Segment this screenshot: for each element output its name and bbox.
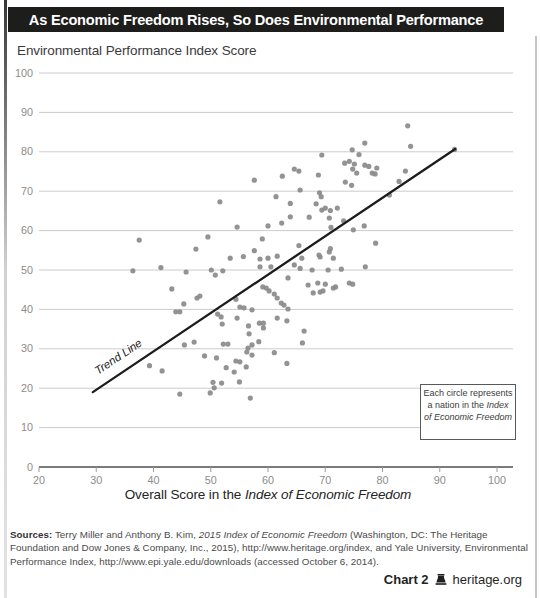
data-point [328,225,333,230]
data-point [335,206,340,211]
sources-italic: 2015 Index of Economic Freedom [199,529,348,540]
y-tick-label: 30 [21,342,33,354]
data-point [232,369,237,374]
data-point [261,325,266,330]
data-point [292,262,297,267]
data-point [319,152,324,157]
data-point [296,243,301,248]
data-point [362,141,367,146]
data-point [275,254,280,259]
data-point [275,316,280,321]
data-point [296,169,301,174]
data-point [219,381,224,386]
data-point [228,256,233,261]
data-point [280,174,285,179]
data-point [265,256,270,261]
data-point [249,353,254,358]
data-point [247,331,252,336]
data-point [137,238,142,243]
y-tick-label: 90 [21,106,33,118]
data-point [349,183,354,188]
data-point [235,316,240,321]
data-point [244,349,249,354]
data-point [248,396,253,401]
data-point [354,171,359,176]
data-point [192,340,197,345]
data-point [331,256,336,261]
data-point [169,286,174,291]
x-tick-label: 30 [90,474,102,486]
data-point [397,179,402,184]
data-point [197,293,202,298]
footer-site: heritage.org [453,572,522,587]
footer: Chart 2 heritage.org [384,572,522,587]
data-point [214,355,219,360]
x-tick-label: 50 [205,474,217,486]
data-point [363,264,368,269]
data-point [237,379,242,384]
data-point [209,267,214,272]
data-point [208,390,213,395]
data-point [327,215,332,220]
data-point [212,385,217,390]
data-point [177,309,182,314]
data-point [284,361,289,366]
data-point [273,194,278,199]
data-point [350,167,355,172]
data-point [314,201,319,206]
y-tick-label: 50 [21,264,33,276]
data-point [260,236,265,241]
data-point [182,342,187,347]
data-point [292,167,297,172]
data-point [257,256,262,261]
data-point [320,288,325,293]
data-point [343,180,348,185]
data-point [300,340,305,345]
data-point [347,159,352,164]
data-point [279,221,284,226]
data-point [356,152,361,157]
data-point [256,339,261,344]
data-point [246,323,251,328]
data-point [217,199,222,204]
sources-label: Sources: [10,529,52,540]
data-point [299,256,304,261]
data-point [306,282,311,287]
data-point [213,273,218,278]
data-point [225,342,230,347]
y-tick-label: 10 [21,421,33,433]
data-point [202,353,207,358]
sources-seg1: Terry Miller and Anthony B. Kim, [52,529,198,540]
trend-line-label: Trend Line [92,337,144,377]
sources-note: Sources: Terry Miller and Anthony B. Kim… [10,528,534,568]
data-point [315,280,320,285]
y-tick-label: 0 [27,461,33,473]
data-point [374,165,379,170]
data-point [318,254,323,259]
y-tick-label: 70 [21,185,33,197]
x-tick-label: 40 [147,474,159,486]
data-point [319,194,324,199]
data-point [219,314,224,319]
data-point [147,363,152,368]
x-tick-label: 70 [319,474,331,486]
annotation-box: Each circle represents a nation in the I… [420,384,516,440]
data-point [373,171,378,176]
data-point [284,318,289,323]
data-point [268,264,273,269]
data-point [281,303,286,308]
x-tick-label: 60 [262,474,274,486]
data-point [261,321,266,326]
data-point [184,269,189,274]
data-point [352,161,357,166]
data-point [285,306,290,311]
data-point [373,241,378,246]
data-point [307,215,312,220]
data-point [220,268,225,273]
data-point [316,172,321,177]
data-point [319,208,324,213]
data-point [267,288,272,293]
data-point [130,268,135,273]
heritage-bell-icon [434,573,448,587]
data-point [205,234,210,239]
